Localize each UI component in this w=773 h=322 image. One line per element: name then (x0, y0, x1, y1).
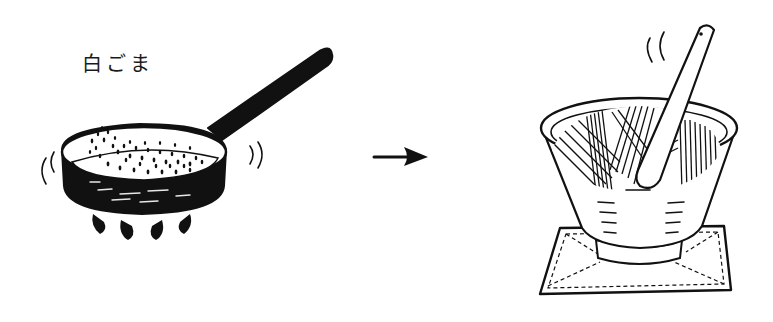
steam-lines-icon (647, 32, 664, 62)
illustration-scene: 白ごま (0, 0, 773, 322)
arrow-right-icon (374, 147, 428, 166)
flame-icon (92, 214, 191, 240)
sesame-label: 白ごま (82, 48, 154, 77)
